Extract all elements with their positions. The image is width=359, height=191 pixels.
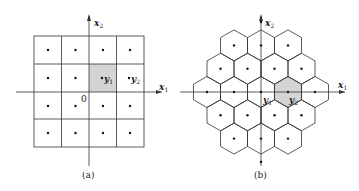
origin-label: 0 xyxy=(81,94,87,104)
caption-a: (a) xyxy=(82,170,94,180)
y1-label-b: y1 xyxy=(262,95,272,106)
y2-label: y2 xyxy=(130,74,140,85)
x1-axis-label: x1 xyxy=(158,82,168,93)
caption-b: (b) xyxy=(254,170,267,180)
panel-b xyxy=(180,14,345,166)
diagram-canvas: x2 x1 0 y1 y2 (a) x2 x1 y1 y2 (b) xyxy=(0,0,359,191)
x2-axis-label-b: x2 xyxy=(264,18,274,29)
x1-axis-label-b: x1 xyxy=(337,80,347,91)
panel-a xyxy=(16,14,162,166)
x2-axis-label: x2 xyxy=(93,18,103,29)
